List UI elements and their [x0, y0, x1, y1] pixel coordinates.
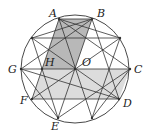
label-F: F: [19, 94, 28, 107]
label-B: B: [96, 7, 105, 20]
label-C: C: [134, 63, 143, 76]
geometry-diagram: A B C D E F G H O: [0, 0, 149, 137]
label-D: D: [122, 97, 132, 110]
label-G: G: [8, 63, 17, 76]
label-E: E: [50, 120, 59, 133]
label-O: O: [82, 56, 91, 69]
label-H: H: [44, 56, 55, 69]
label-A: A: [48, 7, 57, 20]
